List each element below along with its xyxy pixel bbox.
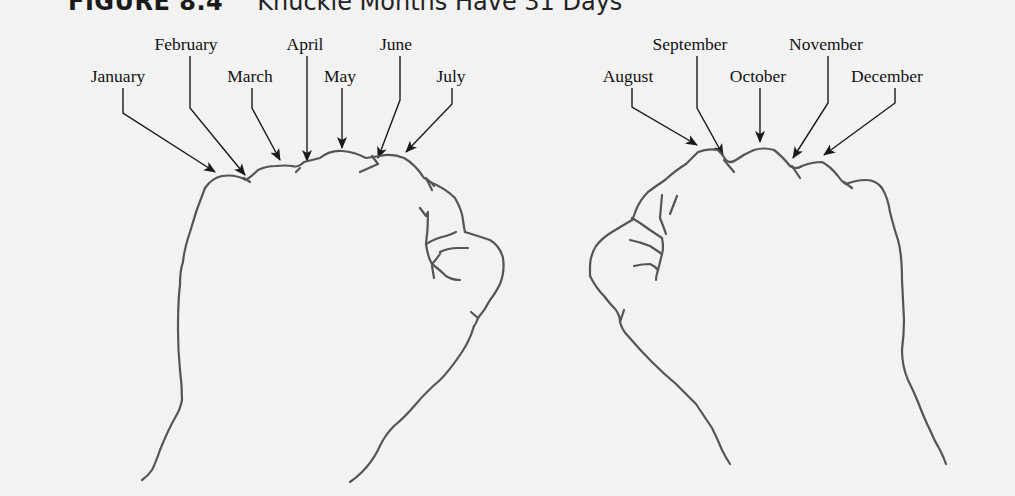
label-september: September <box>653 34 728 54</box>
right-fist-drawing <box>590 149 946 465</box>
label-may: May <box>324 66 356 86</box>
figure-page: FIGURE 8.4Knuckle Months Have 31 Days <box>0 0 1015 496</box>
label-april: April <box>287 34 324 54</box>
arrow-september <box>697 56 723 155</box>
label-october: October <box>730 66 786 86</box>
label-november: November <box>789 34 863 54</box>
arrow-march <box>252 88 280 160</box>
label-august: August <box>603 66 654 86</box>
arrow-july <box>406 88 452 152</box>
label-february: February <box>154 34 217 54</box>
arrow-january <box>123 88 215 172</box>
label-july: July <box>436 66 465 86</box>
arrow-june <box>378 56 400 158</box>
label-march: March <box>227 66 273 86</box>
arrow-august <box>632 88 697 145</box>
left-fist-drawing <box>142 151 504 482</box>
label-december: December <box>851 66 923 86</box>
label-june: June <box>380 34 412 54</box>
arrow-november <box>793 56 828 158</box>
arrow-december <box>824 88 895 155</box>
label-january: January <box>91 66 145 86</box>
